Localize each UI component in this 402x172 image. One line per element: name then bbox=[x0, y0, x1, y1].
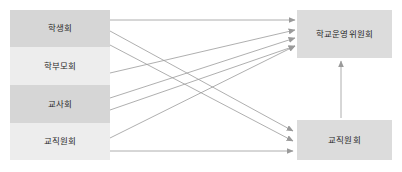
node-label: 교사회 bbox=[48, 100, 73, 109]
node-staff-association-right[interactable]: 교직원회 bbox=[297, 120, 392, 160]
edge-teachers-to-committee-2 bbox=[110, 46, 295, 110]
edge-teachers-to-committee bbox=[110, 38, 295, 98]
diagram-canvas: 학생회 학부모회 교사회 교직원회 학교운영위원회 교직원회 bbox=[0, 0, 402, 172]
edge-parents-to-staff bbox=[110, 45, 293, 141]
edge-student-to-staff bbox=[110, 31, 293, 131]
node-staff-association-left[interactable]: 교직원회 bbox=[10, 123, 110, 160]
node-student-council[interactable]: 학생회 bbox=[10, 10, 110, 47]
node-school-steering-committee[interactable]: 학교운영위원회 bbox=[297, 10, 392, 58]
edge-parents-to-committee bbox=[110, 30, 295, 73]
node-label: 학부모회 bbox=[44, 62, 77, 71]
node-label: 학생회 bbox=[48, 24, 73, 33]
node-parents-association[interactable]: 학부모회 bbox=[10, 47, 110, 85]
node-label: 학교운영위원회 bbox=[316, 30, 373, 39]
node-label: 교직원회 bbox=[44, 137, 77, 146]
node-teachers-association[interactable]: 교사회 bbox=[10, 85, 110, 123]
node-label: 교직원회 bbox=[328, 136, 361, 145]
